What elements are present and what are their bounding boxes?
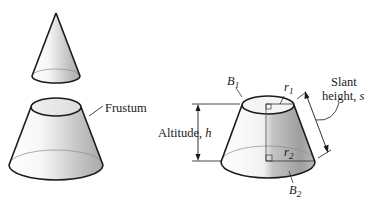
r1-label: r1 (284, 80, 293, 96)
cone-frustum-diagram: Frustum B1 r1 r2 B (0, 0, 372, 211)
right-frustum (221, 96, 315, 178)
slant-label-line1: Slant (331, 75, 357, 89)
altitude-label: Altitude, h (158, 126, 211, 140)
b2-label: B2 (289, 183, 302, 199)
frustum-label: Frustum (105, 101, 147, 115)
left-frustum (9, 98, 103, 180)
slant-label-line2: height, s (322, 89, 365, 103)
small-cone (32, 13, 80, 83)
b1-label: B1 (227, 74, 239, 90)
